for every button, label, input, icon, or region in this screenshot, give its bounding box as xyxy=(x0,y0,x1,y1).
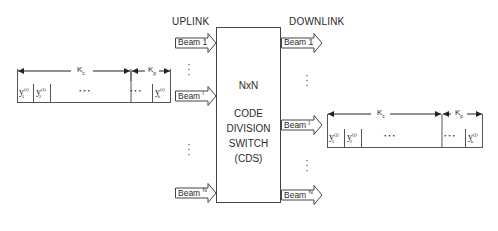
switch-name-line4: (CDS) xyxy=(217,151,280,166)
uplink-beam-1: Beam 1 xyxy=(175,33,217,53)
vertical-ellipsis: ··· xyxy=(304,158,310,173)
downlink-beam-1: Beam 1 xyxy=(281,33,323,53)
beam-label: Beam i xyxy=(178,90,204,101)
downlink-label: DOWNLINK xyxy=(289,16,345,27)
kp-label: Kp xyxy=(148,65,156,76)
switch-name-line2: DIVISION xyxy=(217,121,280,136)
symbol-cell-1: y(j)1 xyxy=(329,131,334,150)
kp-label: Kp xyxy=(455,108,463,119)
symbol-cell-k: y(j)k xyxy=(468,131,473,150)
vertical-ellipsis: ··· xyxy=(186,62,192,77)
vertical-ellipsis: ··· xyxy=(304,73,310,88)
kc-label: Kc xyxy=(377,108,385,119)
beam-label: Beam N xyxy=(284,189,313,200)
uplink-beam-n: Beam N xyxy=(175,183,217,203)
beam-label: Beam 1 xyxy=(284,37,313,47)
ellipsis: • • • xyxy=(444,132,455,151)
ellipsis: • • • xyxy=(384,132,395,151)
ellipsis: • • • xyxy=(79,87,90,106)
symbol-cell-k: y(i)k xyxy=(155,86,160,105)
ellipsis: • • • xyxy=(130,87,141,106)
uplink-label: UPLINK xyxy=(172,16,209,27)
beam-label: Beam N xyxy=(178,187,207,198)
switch-name-line3: SWITCH xyxy=(217,136,280,151)
switch-size-label: NxN xyxy=(217,78,280,93)
symbol-cell-1: y(i)1 xyxy=(19,86,24,105)
vertical-ellipsis: ··· xyxy=(186,142,192,157)
symbol-cell-2: y(i)2 xyxy=(36,86,41,105)
beam-label: Beam 1 xyxy=(178,37,207,47)
code-division-switch: NxN CODE DIVISION SWITCH (CDS) xyxy=(216,27,281,203)
downlink-beam-j: Beam j xyxy=(281,115,323,135)
downlink-beam-n: Beam N xyxy=(281,185,323,205)
downlink-frame: Kc Kp y(j)1 y(j)2 • • • • • • y(j)k xyxy=(327,104,483,148)
uplink-frame: Kc Kp y(i)1 y(i)2 • • • • • • y(i)k xyxy=(17,63,171,103)
kc-label: Kc xyxy=(77,65,85,76)
switch-name-line1: CODE xyxy=(217,106,280,121)
symbol-cell-2: y(j)2 xyxy=(347,131,352,150)
uplink-beam-i: Beam i xyxy=(175,86,217,106)
beam-label: Beam j xyxy=(284,119,310,130)
